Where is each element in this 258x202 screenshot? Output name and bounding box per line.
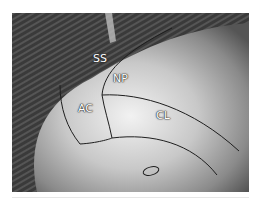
label-cl: CL: [156, 110, 170, 121]
divider: [12, 197, 249, 198]
label-ss: SS: [93, 53, 107, 64]
anatomical-figure: SS NP AC CL: [12, 13, 249, 192]
label-ac: AC: [78, 103, 93, 114]
figure-graphic: [12, 13, 249, 192]
label-np: NP: [113, 73, 128, 84]
